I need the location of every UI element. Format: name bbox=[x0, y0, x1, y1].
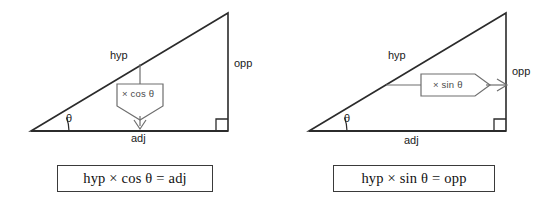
hypotenuse-label: hyp bbox=[110, 50, 128, 61]
triangle-outline bbox=[309, 13, 506, 131]
right-angle-marker-icon bbox=[494, 119, 506, 131]
trigonometry-diagram-page: hyp opp adj θ × cos θ hyp × cos θ = adj bbox=[0, 0, 556, 200]
cosine-formula-box: hyp × cos θ = adj bbox=[57, 165, 213, 192]
sine-operation-label: × sin θ bbox=[433, 80, 463, 90]
opposite-label: opp bbox=[234, 58, 252, 69]
theta-angle-label: θ bbox=[344, 113, 350, 124]
adjacent-label: adj bbox=[404, 135, 419, 146]
adjacent-label: adj bbox=[131, 133, 146, 144]
opposite-label: opp bbox=[512, 66, 530, 77]
sine-panel: hyp opp adj θ × sin θ hyp × sin θ = opp bbox=[278, 0, 556, 200]
theta-angle-label: θ bbox=[66, 113, 72, 124]
cosine-panel: hyp opp adj θ × cos θ hyp × cos θ = adj bbox=[0, 0, 278, 200]
sine-formula-text: hyp × sin θ = opp bbox=[361, 170, 466, 187]
right-angle-marker-icon bbox=[216, 119, 228, 131]
cosine-formula-text: hyp × cos θ = adj bbox=[83, 170, 187, 187]
sine-formula-box: hyp × sin θ = opp bbox=[333, 165, 495, 192]
hypotenuse-label: hyp bbox=[388, 50, 406, 61]
cosine-operation-label: × cos θ bbox=[122, 89, 154, 99]
